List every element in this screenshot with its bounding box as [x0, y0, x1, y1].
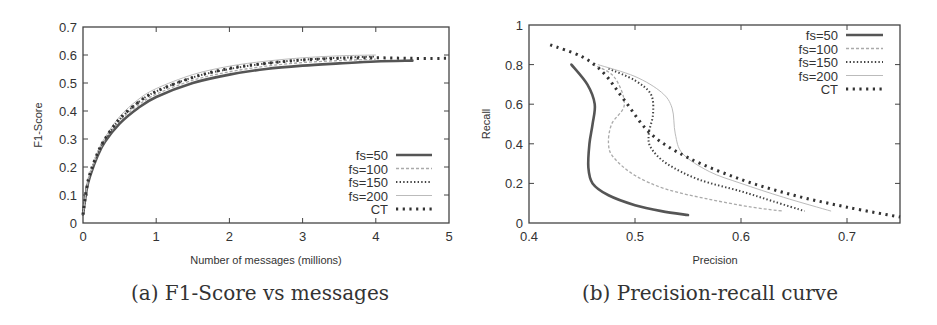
caption-a: (a) F1-Score vs messages — [131, 281, 389, 305]
chart-precision-recall: 0.40.50.60.700.20.40.60.81 Recall Precis… — [480, 18, 900, 305]
legend-a: fs=50fs=100fs=150fs=200CT — [349, 148, 432, 217]
series-line-fs200 — [83, 55, 376, 215]
y-axis-label-b: Recall — [480, 109, 492, 140]
y-tick-label: 0.6 — [505, 97, 523, 112]
y-tick-label: 0.7 — [59, 20, 77, 35]
figure: 01234500.10.20.30.40.50.60.7 F1-Score Nu… — [0, 0, 937, 325]
series-line-fs200 — [598, 65, 831, 212]
x-tick-label: 0.5 — [626, 229, 644, 244]
x-axis-label-b: Precision — [692, 254, 737, 266]
series-line-fs100 — [593, 65, 784, 212]
y-tick-label: 1 — [516, 18, 523, 33]
x-tick-label: 0.4 — [520, 229, 538, 244]
legend-b: fs=50fs=100fs=150fs=200CT — [799, 28, 883, 97]
y-tick-label: 0.2 — [505, 176, 523, 191]
x-tick-label: 4 — [372, 229, 379, 244]
y-tick-label: 0.2 — [59, 160, 77, 175]
series-lines-b — [550, 45, 900, 217]
y-tick-label: 0 — [516, 216, 523, 231]
plot-frame-b — [529, 25, 900, 223]
series-line-ct — [83, 58, 449, 215]
x-tick-label: 0.7 — [838, 229, 856, 244]
chart-f1-vs-messages: 01234500.10.20.30.40.50.60.7 F1-Score Nu… — [32, 20, 453, 305]
y-tick-label: 0.3 — [59, 132, 77, 147]
series-lines-a — [83, 55, 449, 215]
y-tick-label: 0.5 — [59, 76, 77, 91]
x-tick-label: 5 — [445, 229, 452, 244]
y-tick-label: 0.8 — [505, 58, 523, 73]
series-line-fs100 — [83, 59, 376, 214]
series-line-fs150 — [83, 56, 376, 214]
y-tick-label: 0.4 — [59, 104, 77, 119]
x-tick-label: 3 — [299, 229, 306, 244]
x-tick-label: 1 — [153, 229, 160, 244]
y-axis-label-a: F1-Score — [32, 102, 44, 147]
axis-ticks-b: 0.40.50.60.700.20.40.60.81 — [505, 18, 900, 244]
caption-b: (b) Precision-recall curve — [582, 281, 838, 305]
y-tick-label: 0.1 — [59, 188, 77, 203]
x-axis-label-a: Number of messages (millions) — [190, 254, 342, 266]
legend-label: CT — [821, 82, 838, 97]
plot-frame-a — [83, 27, 449, 223]
y-tick-label: 0 — [70, 216, 77, 231]
y-tick-label: 0.4 — [505, 137, 523, 152]
series-line-fs50 — [571, 65, 688, 215]
x-tick-label: 0 — [79, 229, 86, 244]
y-tick-label: 0.6 — [59, 48, 77, 63]
x-tick-label: 0.6 — [732, 229, 750, 244]
x-tick-label: 2 — [226, 229, 233, 244]
axis-ticks-a: 01234500.10.20.30.40.50.60.7 — [59, 20, 453, 244]
legend-label: CT — [371, 202, 388, 217]
